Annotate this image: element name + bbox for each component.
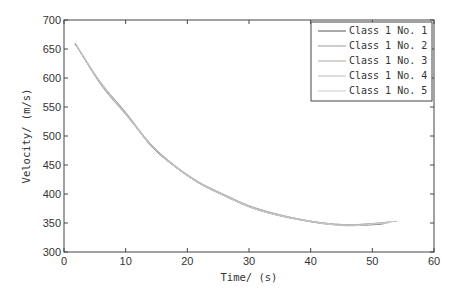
y-tick-label: 350 — [43, 217, 61, 229]
x-tick-label: 10 — [120, 255, 132, 267]
x-axis-label: Time/ (s) — [221, 271, 278, 283]
y-tick-label: 400 — [43, 188, 61, 200]
y-tick-label: 600 — [43, 72, 61, 84]
y-tick-label: 550 — [43, 101, 61, 113]
legend-entry: Class 1 No. 4 — [349, 70, 427, 81]
x-tick-label: 30 — [243, 255, 255, 267]
y-axis-label: Velocity/ (m/s) — [20, 89, 32, 184]
legend-entry: Class 1 No. 5 — [349, 85, 427, 96]
legend: Class 1 No. 1Class 1 No. 2Class 1 No. 3C… — [311, 22, 432, 101]
x-tick-label: 50 — [366, 255, 378, 267]
legend-entry: Class 1 No. 1 — [349, 25, 427, 36]
y-tick-label: 300 — [43, 246, 61, 258]
x-tick-label: 60 — [428, 255, 440, 267]
y-tick-label: 500 — [43, 130, 61, 142]
legend-entry: Class 1 No. 2 — [349, 40, 427, 51]
y-tick-label: 450 — [43, 159, 61, 171]
velocity-time-chart: 300350400450500550600650700 010203040506… — [0, 0, 462, 299]
x-tick-label: 40 — [305, 255, 317, 267]
y-tick-label: 650 — [43, 43, 61, 55]
y-tick-label: 700 — [43, 14, 61, 26]
legend-entry: Class 1 No. 3 — [349, 55, 427, 66]
x-tick-label: 0 — [61, 255, 67, 267]
x-tick-label: 20 — [181, 255, 193, 267]
